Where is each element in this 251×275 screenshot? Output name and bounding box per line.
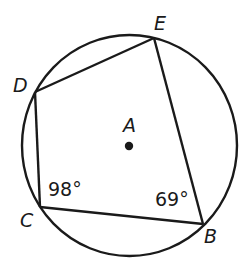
angle-c-measure: 98° [48, 178, 82, 200]
inscribed-quadrilateral-diagram: A E D C B 98° 69° [0, 0, 251, 275]
side-cd [35, 92, 40, 207]
label-d: D [13, 74, 28, 96]
angle-b-measure: 69° [155, 188, 189, 210]
label-e: E [154, 12, 166, 34]
center-point-a [125, 142, 133, 150]
label-a: A [121, 114, 136, 136]
label-c: C [20, 209, 34, 231]
side-de [35, 38, 154, 92]
label-b: B [204, 225, 217, 247]
